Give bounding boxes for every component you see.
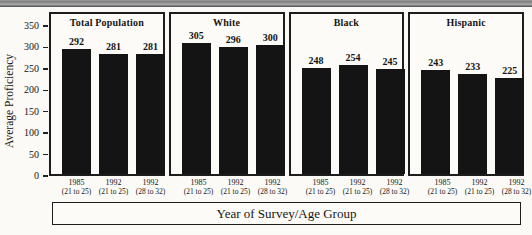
bar-value-label: 296 — [226, 35, 241, 45]
y-tick-label-100: 100 — [8, 127, 39, 138]
bar-group-total-population-1: 281 — [99, 42, 128, 174]
bars-row-total-population: 292281281 — [51, 37, 163, 174]
bar-group-hispanic-2: 225 — [495, 66, 524, 174]
x-axis-title-text: Year of Survey/Age Group — [217, 206, 357, 222]
x-tick-label-total-population-2: 1992(28 to 32) — [136, 179, 165, 196]
x-axis-title-box: Year of Survey/Age Group — [52, 202, 521, 225]
bar — [182, 43, 211, 174]
x-axis-labels: 1985(21 to 25)1992(21 to 25)1992(28 to 3… — [49, 179, 524, 196]
x-tick-label-white-1: 1992(21 to 25) — [221, 179, 250, 196]
y-tick-label-0: 0 — [8, 170, 39, 181]
bar-value-label: 292 — [69, 37, 84, 47]
x-tick-age-range: (28 to 32) — [502, 188, 532, 197]
bar — [256, 45, 285, 174]
bar-group-white-2: 300 — [256, 33, 285, 174]
bar — [376, 69, 405, 174]
x-tick-label-hispanic-1: 1992(21 to 25) — [465, 179, 494, 196]
bar-value-label: 281 — [143, 42, 158, 52]
x-label-cell-black: 1985(21 to 25)1992(21 to 25)1992(28 to 3… — [293, 179, 411, 196]
bar — [219, 47, 248, 174]
panel-header-total-population: Total Population — [51, 17, 163, 28]
x-tick-age-range: (21 to 25) — [184, 188, 214, 197]
panel-black: Black248254245 — [289, 12, 405, 176]
y-tick-mark-50 — [43, 154, 48, 156]
bar-group-hispanic-1: 233 — [458, 62, 487, 174]
x-tick-age-range: (21 to 25) — [343, 188, 373, 197]
x-tick-age-range: (21 to 25) — [62, 188, 92, 197]
bar-value-label: 300 — [263, 33, 278, 43]
x-tick-age-range: (21 to 25) — [306, 188, 336, 197]
bar-chart-figure: Average Proficiency 05010015020025030035… — [0, 0, 532, 235]
x-tick-age-range: (28 to 32) — [380, 188, 410, 197]
bar — [458, 74, 487, 174]
x-tick-age-range: (21 to 25) — [99, 188, 129, 197]
bar-value-label: 281 — [106, 42, 121, 52]
panel-white: White305296300 — [169, 12, 285, 176]
bar — [302, 68, 331, 174]
bar-group-black-2: 245 — [376, 57, 405, 174]
bar-group-black-1: 254 — [339, 53, 368, 174]
panels: Total Population292281281White305296300B… — [49, 12, 524, 176]
x-tick-label-hispanic-2: 1992(28 to 32) — [502, 179, 531, 196]
bar-value-label: 243 — [428, 58, 443, 68]
x-label-cell-total-population: 1985(21 to 25)1992(21 to 25)1992(28 to 3… — [49, 179, 167, 196]
bar-group-white-1: 296 — [219, 35, 248, 174]
x-tick-label-black-2: 1992(28 to 32) — [380, 179, 409, 196]
x-label-cell-hispanic: 1985(21 to 25)1992(21 to 25)1992(28 to 3… — [415, 179, 532, 196]
y-tick-mark-150 — [43, 111, 48, 113]
y-tick-mark-350 — [43, 25, 48, 27]
bar-group-black-0: 248 — [302, 56, 331, 174]
bar-value-label: 245 — [383, 57, 398, 67]
y-tick-label-250: 250 — [8, 63, 39, 74]
bar-value-label: 225 — [502, 66, 517, 76]
bars-row-hispanic: 243233225 — [410, 58, 522, 174]
x-tick-label-white-0: 1985(21 to 25) — [184, 179, 213, 196]
panel-hispanic: Hispanic243233225 — [408, 12, 524, 176]
x-tick-label-total-population-1: 1992(21 to 25) — [99, 179, 128, 196]
y-tick-label-300: 300 — [8, 41, 39, 52]
x-tick-label-black-1: 1992(21 to 25) — [343, 179, 372, 196]
x-tick-label-white-2: 1992(28 to 32) — [258, 179, 287, 196]
x-tick-age-range: (28 to 32) — [258, 188, 288, 197]
bar-value-label: 233 — [465, 62, 480, 72]
bar — [62, 49, 91, 174]
x-label-cell-white: 1985(21 to 25)1992(21 to 25)1992(28 to 3… — [171, 179, 289, 196]
y-tick-mark-0 — [43, 175, 48, 177]
y-tick-label-200: 200 — [8, 84, 39, 95]
bar-group-hispanic-0: 243 — [421, 58, 450, 174]
bar-value-label: 254 — [346, 53, 361, 63]
bar-group-total-population-0: 292 — [62, 37, 91, 174]
bar — [421, 70, 450, 174]
panel-header-black: Black — [291, 17, 403, 28]
bars-row-white: 305296300 — [171, 31, 283, 174]
x-tick-age-range: (21 to 25) — [428, 188, 458, 197]
x-tick-age-range: (28 to 32) — [136, 188, 166, 197]
top-rule — [0, 0, 532, 7]
bar — [136, 54, 165, 174]
bar-value-label: 305 — [189, 31, 204, 41]
bar-group-white-0: 305 — [182, 31, 211, 174]
panel-header-hispanic: Hispanic — [410, 17, 522, 28]
x-tick-label-black-0: 1985(21 to 25) — [306, 179, 335, 196]
y-tick-mark-200 — [43, 90, 48, 92]
y-tick-mark-100 — [43, 132, 48, 134]
bar — [99, 54, 128, 174]
y-tick-label-50: 50 — [8, 149, 39, 160]
x-tick-age-range: (21 to 25) — [221, 188, 251, 197]
y-tick-mark-250 — [43, 68, 48, 70]
panel-total-population: Total Population292281281 — [49, 12, 165, 176]
bars-row-black: 248254245 — [291, 53, 403, 174]
x-tick-label-total-population-0: 1985(21 to 25) — [62, 179, 91, 196]
bar — [339, 65, 368, 174]
panel-header-white: White — [171, 17, 283, 28]
y-tick-label-150: 150 — [8, 106, 39, 117]
bar-group-total-population-2: 281 — [136, 42, 165, 174]
x-tick-label-hispanic-0: 1985(21 to 25) — [428, 179, 457, 196]
bar — [495, 78, 524, 174]
x-tick-age-range: (21 to 25) — [465, 188, 495, 197]
bar-value-label: 248 — [309, 56, 324, 66]
y-tick-label-350: 350 — [8, 20, 39, 31]
y-tick-mark-300 — [43, 47, 48, 49]
